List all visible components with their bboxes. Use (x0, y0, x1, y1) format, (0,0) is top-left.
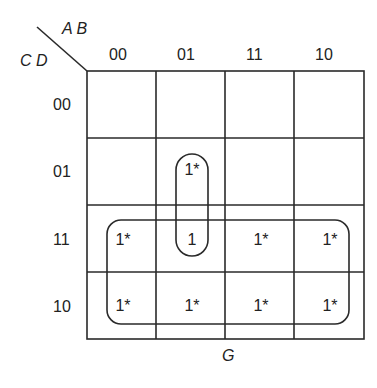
cell-10-10: 1* (310, 297, 350, 315)
row-header: 10 (53, 298, 71, 316)
col-header: 01 (177, 46, 195, 64)
cell-10-11: 1* (241, 297, 281, 315)
cell-11-11: 1* (241, 231, 281, 249)
cell-11-00: 1* (103, 231, 143, 249)
cell-11-10: 1* (310, 231, 350, 249)
row-header: 01 (53, 163, 71, 181)
col-header: 11 (246, 46, 263, 64)
cell-01-01: 1* (172, 161, 212, 179)
output-label: G (222, 347, 234, 365)
cell-11-01: 1 (172, 231, 212, 249)
col-variables-label: A B (62, 20, 87, 38)
row-header: 00 (53, 96, 71, 114)
row-variables-label: C D (20, 52, 48, 70)
col-header: 00 (109, 46, 127, 64)
cell-10-01: 1* (172, 297, 212, 315)
cell-10-00: 1* (103, 297, 143, 315)
col-header: 10 (315, 46, 333, 64)
row-header: 11 (53, 231, 70, 249)
